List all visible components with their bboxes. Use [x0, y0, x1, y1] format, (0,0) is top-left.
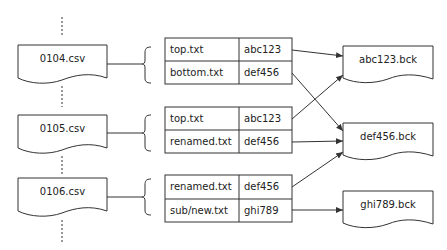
- table-cell-path: sub/new.txt: [170, 205, 228, 217]
- brace-0105: [142, 115, 151, 151]
- table-cell-path: renamed.txt: [170, 181, 232, 193]
- table-cell-hash: ghi789: [244, 205, 279, 217]
- snapshot-label: 0105.csv: [18, 123, 107, 135]
- backup-label: abc123.bck: [343, 54, 433, 66]
- table-cell-hash: def456: [244, 67, 279, 79]
- table-cell-path: top.txt: [170, 44, 203, 56]
- snapshot-label: 0106.csv: [18, 186, 107, 198]
- table-cell-hash: abc123: [244, 44, 281, 56]
- brace-0106: [142, 179, 151, 215]
- backup-label: ghi789.bck: [343, 199, 433, 211]
- table-cell-hash: def456: [244, 136, 279, 148]
- table-cell-path: top.txt: [170, 113, 203, 125]
- table-cell-hash: def456: [244, 181, 279, 193]
- doc-connectors: [107, 64, 142, 197]
- table-cell-path: renamed.txt: [170, 136, 232, 148]
- backup-label: def456.bck: [343, 131, 433, 143]
- table-cell-path: bottom.txt: [170, 67, 223, 79]
- hash-arrows: [292, 50, 343, 210]
- brace-0104: [142, 47, 151, 83]
- snapshot-label: 0104.csv: [18, 53, 107, 65]
- table-cell-hash: abc123: [244, 113, 281, 125]
